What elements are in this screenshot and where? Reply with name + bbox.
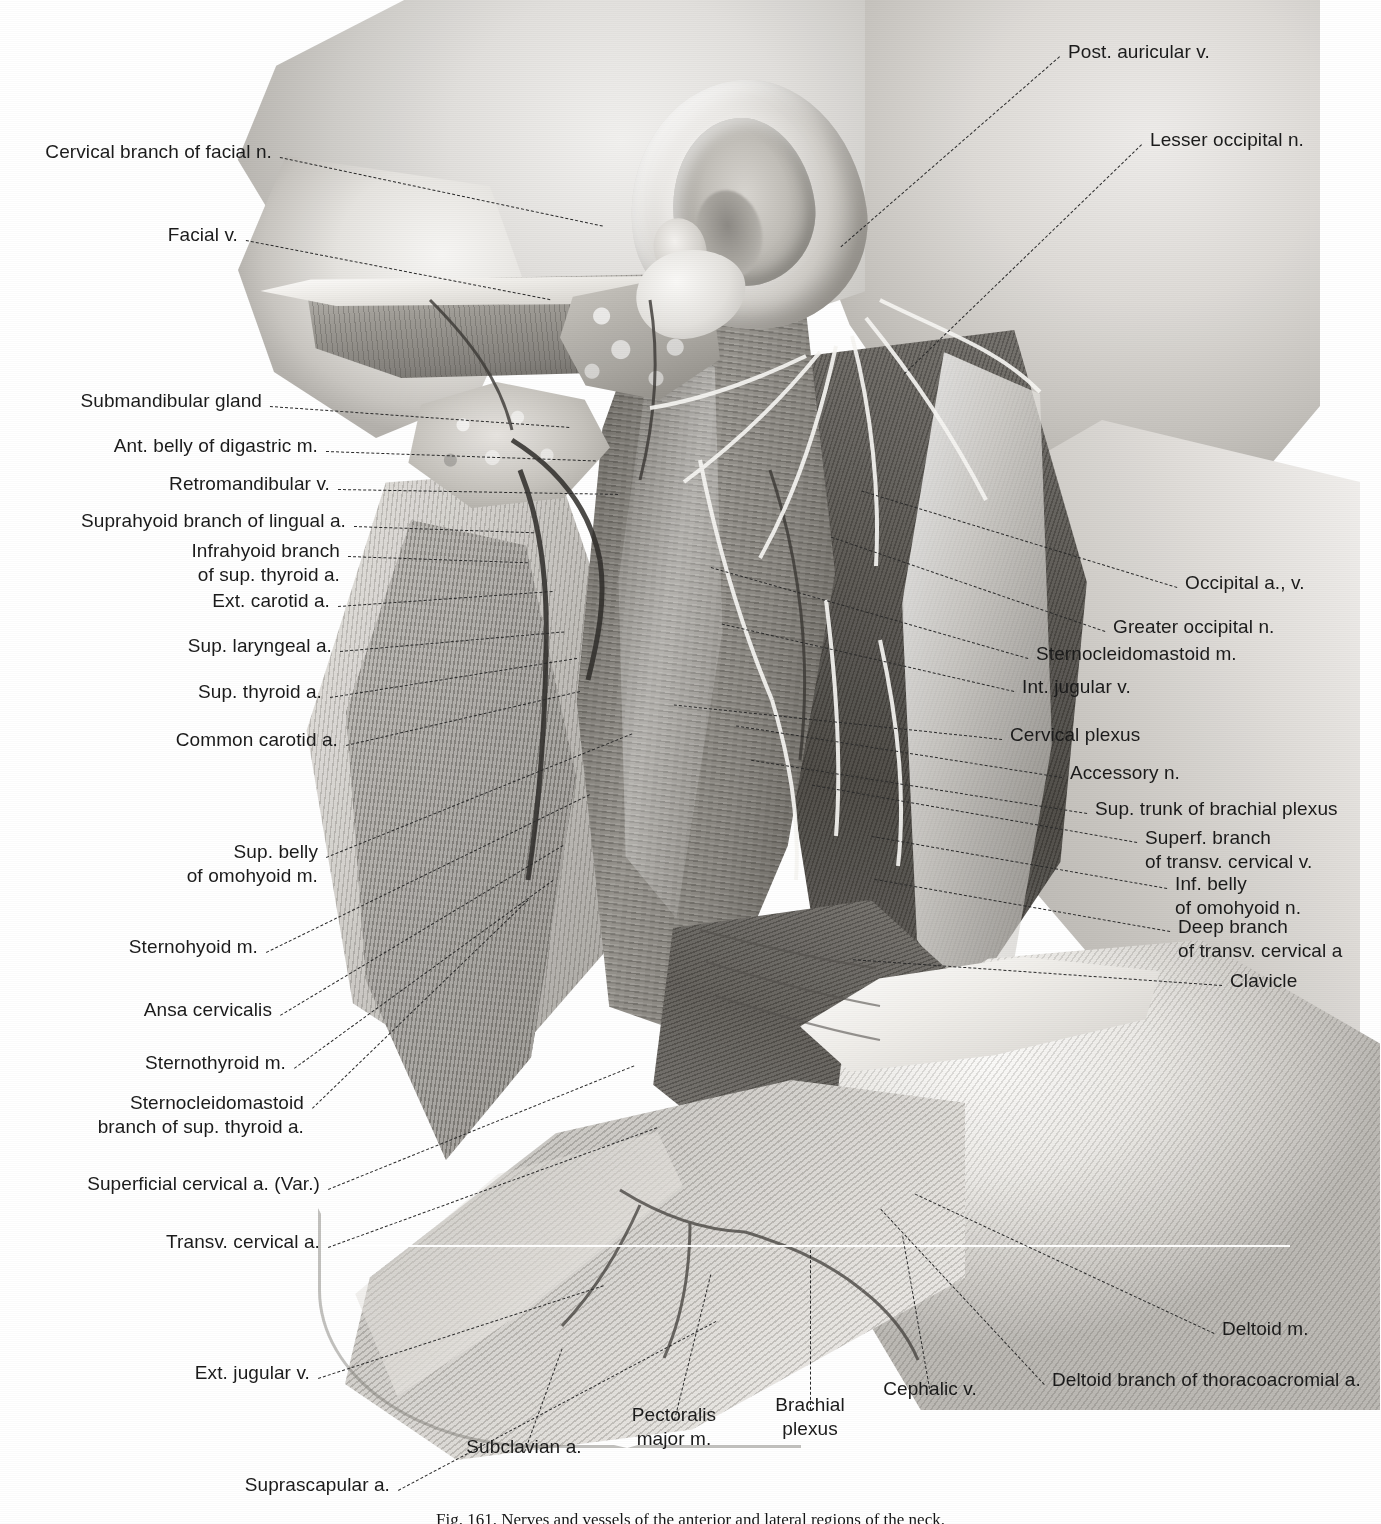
label-pectoralis-major-m: Pectoralis major m.	[632, 1403, 716, 1451]
label-common-carotid-a: Common carotid a.	[176, 728, 338, 752]
label-sup-laryngeal-a: Sup. laryngeal a.	[188, 634, 332, 658]
artery-group	[512, 440, 602, 880]
scanline-artifact	[330, 1245, 1290, 1247]
label-suprascapular-a: Suprascapular a.	[245, 1473, 390, 1497]
label-deep-branch-transv-cervical-a: Deep branch of transv. cervical a	[1178, 915, 1342, 963]
figure-caption: Fig. 161. Nerves and vessels of the ante…	[0, 1510, 1381, 1524]
label-cervical-branch-facial-n: Cervical branch of facial n.	[45, 140, 272, 164]
label-sternothyroid-m: Sternothyroid m.	[145, 1051, 286, 1075]
label-transv-cervical-a: Transv. cervical a.	[166, 1230, 320, 1254]
label-sternohyoid-m: Sternohyoid m.	[129, 935, 258, 959]
label-superficial-cervical-a-var: Superficial cervical a. (Var.)	[87, 1172, 320, 1196]
label-sup-belly-omohyoid-m: Sup. belly of omohyoid m.	[187, 840, 318, 888]
label-accessory-n: Accessory n.	[1070, 761, 1180, 785]
label-cephalic-v: Cephalic v.	[883, 1377, 977, 1401]
anatomy-plate: Cervical branch of facial n.Facial v.Sub…	[0, 0, 1381, 1524]
nerve-group	[650, 300, 1040, 880]
label-sup-thyroid-a: Sup. thyroid a.	[198, 680, 322, 704]
label-ant-belly-digastric-m: Ant. belly of digastric m.	[114, 434, 318, 458]
label-facial-v: Facial v.	[168, 223, 238, 247]
label-subclavian-a: Subclavian a.	[466, 1435, 581, 1459]
label-sternocleidomastoid-m: Sternocleidomastoid m.	[1036, 642, 1237, 666]
label-sternocleidomastoid-branch-sup-thyroid-a: Sternocleidomastoid branch of sup. thyro…	[98, 1091, 304, 1139]
label-deltoid-m: Deltoid m.	[1222, 1317, 1309, 1341]
deep-plexus-group	[700, 930, 880, 1040]
label-brachial-plexus: Brachial plexus	[775, 1393, 844, 1441]
label-sup-trunk-brachial-plexus: Sup. trunk of brachial plexus	[1095, 797, 1338, 821]
label-retromandibular-v: Retromandibular v.	[169, 472, 330, 496]
label-cervical-plexus: Cervical plexus	[1010, 723, 1140, 747]
vein-group	[430, 300, 805, 760]
label-occipital-a-v: Occipital a., v.	[1185, 571, 1305, 595]
label-ext-carotid-a: Ext. carotid a.	[212, 589, 330, 613]
label-clavicle: Clavicle	[1230, 969, 1297, 993]
label-submandibular-gland: Submandibular gland	[81, 389, 262, 413]
label-post-auricular-v: Post. auricular v.	[1068, 40, 1210, 64]
label-int-jugular-v: Int. jugular v.	[1022, 675, 1131, 699]
label-inf-belly-omohyoid-n: Inf. belly of omohyoid n.	[1175, 872, 1301, 920]
subclavian-branch-group	[562, 1190, 918, 1360]
label-ext-jugular-v: Ext. jugular v.	[195, 1361, 310, 1385]
label-ansa-cervicalis: Ansa cervicalis	[144, 998, 272, 1022]
label-infrahyoid-branch-sup-thyroid-a: Infrahyoid branch of sup. thyroid a.	[191, 539, 340, 587]
label-suprahyoid-branch-lingual-a: Suprahyoid branch of lingual a.	[81, 509, 346, 533]
label-lesser-occipital-n: Lesser occipital n.	[1150, 128, 1304, 152]
label-greater-occipital-n: Greater occipital n.	[1113, 615, 1274, 639]
label-deltoid-branch-thoracoacromial-a: Deltoid branch of thoracoacromial a.	[1052, 1368, 1361, 1392]
label-superf-branch-transv-cervical-v: Superf. branch of transv. cervical v.	[1145, 826, 1312, 874]
